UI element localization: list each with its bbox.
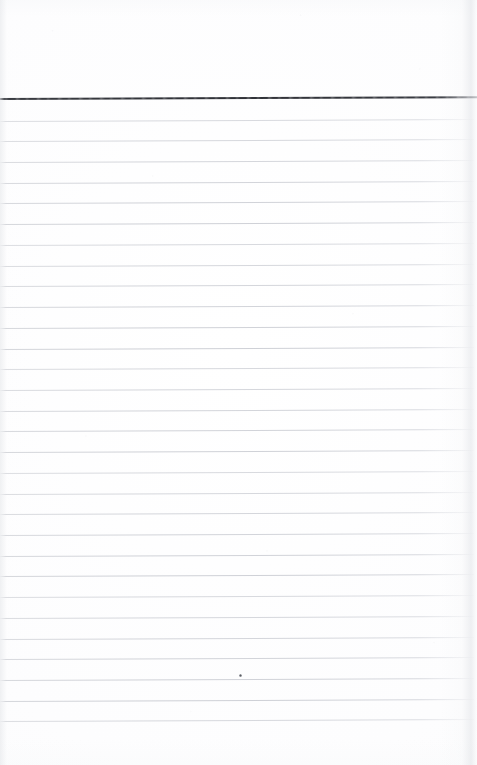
- rule-line: [0, 222, 474, 225]
- rule-line: [0, 264, 474, 267]
- rule-line: [0, 637, 474, 640]
- header-rule: [0, 97, 477, 100]
- rule-line: [0, 243, 474, 246]
- rule-line: [0, 533, 474, 536]
- rule-line: [0, 181, 474, 184]
- footer-margin: [0, 726, 477, 765]
- paper-texture: [0, 0, 477, 765]
- rule-line: [0, 719, 474, 722]
- ink-speck-mark: [239, 674, 242, 677]
- rule-line: [0, 512, 474, 515]
- rule-line: [0, 388, 474, 391]
- rule-line: [0, 367, 474, 370]
- rule-line: [0, 616, 474, 619]
- rule-line: [0, 471, 474, 474]
- rule-line: [0, 305, 474, 308]
- rule-line: [0, 429, 474, 432]
- rule-line: [0, 492, 474, 495]
- rule-line: [0, 409, 474, 412]
- rule-line: [0, 201, 474, 204]
- rule-line: [0, 284, 474, 287]
- rule-line: [0, 554, 474, 557]
- scanned-notepad-page: [0, 0, 477, 765]
- rule-line: [0, 326, 474, 329]
- rule-line: [0, 139, 474, 142]
- rule-line: [0, 160, 474, 163]
- rule-line: [0, 119, 474, 122]
- paper-scan-noise: [0, 0, 477, 765]
- rule-line: [0, 699, 474, 702]
- rule-line: [0, 574, 474, 577]
- rule-line: [0, 595, 474, 598]
- header-margin: [0, 0, 477, 97]
- rule-line: [0, 657, 474, 660]
- rule-line: [0, 450, 474, 453]
- rule-line: [0, 678, 474, 681]
- rule-line: [0, 347, 474, 350]
